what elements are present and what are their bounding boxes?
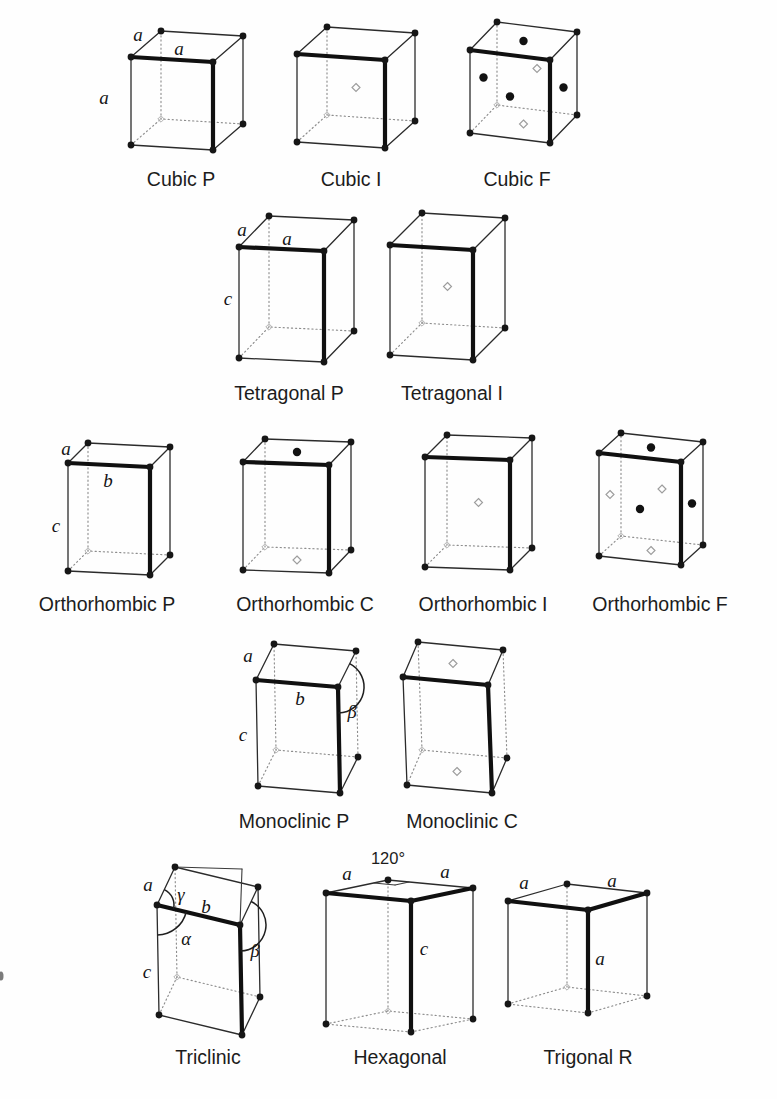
cell-caption: Orthorhombic C [236,593,374,615]
page-background [0,0,777,1099]
lattice-point [547,140,554,147]
lattice-point [387,242,394,249]
lattice-point [255,783,262,790]
lattice-point [507,567,514,574]
angle-label: γ [177,885,185,905]
lattice-point [382,57,389,64]
lattice-point [700,439,707,446]
right-center-point [559,83,567,91]
edge-label: a [174,38,184,59]
edge-label: a [143,874,153,895]
lattice-point [505,1001,512,1008]
lattice-point [644,890,651,897]
lattice-point [351,328,358,335]
lattice-point [596,450,603,457]
edge-label: c [52,515,61,536]
lattice-point [210,147,217,154]
cell-caption: Monoclinic C [406,810,518,832]
lattice-point [240,567,247,574]
edge-label: a [282,228,292,249]
lattice-point [266,213,273,220]
top-center-point [293,448,301,456]
cell-caption: Cubic F [483,168,550,190]
lattice-point [257,994,264,1001]
lattice-point [400,674,407,681]
lattice-point [65,568,72,575]
lattice-point [470,357,477,364]
lattice-point [412,30,419,37]
front-center-point [506,92,514,100]
lattice-point [351,217,358,224]
edge-label: 120° [371,849,405,867]
edge-label: a [595,948,605,969]
lattice-point [494,19,501,26]
lattice-point [644,993,651,1000]
top-center-point [647,443,655,451]
lattice-point [412,118,419,125]
lattice-point [408,1029,415,1036]
edge-label: a [61,438,71,459]
lattice-point [500,647,507,654]
bravais-lattices-canvas: aaaCubic PCubic ICubic FaacTetragonal PT… [0,0,777,1099]
cell-caption: Monoclinic P [239,810,350,832]
lattice-point [348,547,355,554]
edge-label: a [440,861,450,882]
lattice-point [236,355,243,362]
lattice-point [271,641,278,648]
cell-edge-bold [338,687,340,793]
lattice-point [240,459,247,466]
lattice-point [678,562,685,569]
lattice-point [335,684,342,691]
lattice-point [507,457,514,464]
lattice-point [415,639,422,646]
lattice-point [167,552,174,559]
lattice-point [585,1010,592,1017]
lattice-point [547,57,554,64]
lattice-point [467,130,474,137]
edge-label: a [519,872,529,893]
edge-label: b [201,896,211,917]
cell-caption: Cubic I [321,168,382,190]
angle-label: α [181,929,192,949]
lattice-point [253,677,260,684]
lattice-point [262,436,269,443]
lattice-point [504,755,511,762]
edge-label: a [243,645,253,666]
angle-label: β [346,702,357,722]
edge-label: c [420,938,429,959]
lattice-point [326,570,333,577]
cell-caption: Orthorhombic F [592,593,728,615]
lattice-point [326,462,333,469]
edge-label: b [295,688,305,709]
lattice-point [489,790,496,797]
lattice-point [158,28,165,35]
lattice-point [529,545,536,552]
edge-label: a [342,863,352,884]
lattice-point [385,877,392,884]
lattice-point [618,430,625,437]
edge-label: c [239,724,248,745]
lattice-point [321,359,328,366]
lattice-point [154,902,161,909]
lattice-point [236,244,243,251]
cell-caption: Hexagonal [353,1046,446,1068]
lattice-point [382,145,389,152]
lattice-point [355,754,362,761]
lattice-point [678,459,685,466]
top-center-point [519,37,527,45]
right-center-point [688,499,696,507]
lattice-point [574,112,581,119]
lattice-point [444,432,451,439]
edge-label: b [103,470,113,491]
lattice-point [467,47,474,54]
lattice-point [700,542,707,549]
cell-caption: Trigonal R [543,1046,632,1068]
edge-label: a [133,24,143,45]
edge-label: a [99,87,109,108]
lattice-point [502,215,509,222]
lattice-point [239,1032,246,1039]
cell-edge-bold [425,457,510,460]
lattice-point [240,33,247,40]
lattice-point [502,325,509,332]
lattice-point [387,352,394,359]
